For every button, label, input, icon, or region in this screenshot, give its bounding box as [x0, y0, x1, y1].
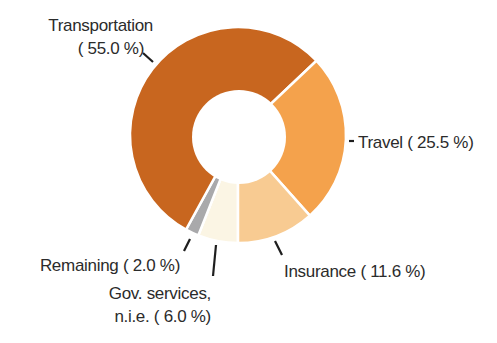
travel-label: Travel ( 25.5 %) [358, 133, 474, 152]
insurance-label: Insurance ( 11.6 %) [284, 262, 425, 281]
transportation-label-name: Transportation [48, 16, 153, 35]
donut-chart-canvas: Transportation ( 55.0 %) Travel ( 25.5 %… [0, 0, 497, 343]
insurance-connector [275, 241, 282, 255]
remaining-label: Remaining ( 2.0 %) [40, 256, 180, 275]
remaining-connector [184, 239, 190, 251]
gov-services-label-name: Gov. services, [109, 284, 211, 303]
donut-chart: Transportation ( 55.0 %) Travel ( 25.5 %… [0, 0, 497, 343]
transportation-connector [143, 53, 153, 62]
donut-hole [192, 90, 286, 184]
transportation-label-value: ( 55.0 %) [78, 39, 144, 58]
gov-services-connector [213, 245, 216, 276]
gov-services-label-value: n.i.e. ( 6.0 %) [114, 307, 211, 326]
